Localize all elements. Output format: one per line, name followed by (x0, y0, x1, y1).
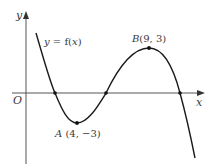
x-axis-label: x (196, 96, 203, 109)
minimum-point-a (75, 121, 79, 125)
cubic-curve (36, 33, 195, 158)
root-dot (178, 91, 182, 95)
origin-label: O (13, 94, 22, 107)
y-axis-arrow-icon (23, 11, 29, 19)
y-axis-label: y (15, 9, 23, 22)
point-a-label: A (4, −3) (54, 128, 101, 139)
cubic-graph: y x O y = f(x) A (4, −3) B(9, 3) (0, 0, 213, 164)
root-dot (104, 91, 108, 95)
maximum-point-b (147, 46, 151, 50)
point-b-label: B(9, 3) (131, 33, 166, 44)
root-dot (53, 91, 57, 95)
curve-label: y = f(x) (43, 36, 82, 47)
